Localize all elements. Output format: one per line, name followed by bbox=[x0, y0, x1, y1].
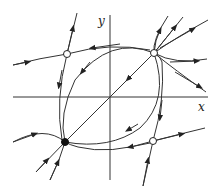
y-axis-label: y bbox=[98, 14, 105, 28]
x-axis-label: x bbox=[198, 100, 205, 114]
saddle-bottom-right-point bbox=[150, 138, 157, 145]
phase-portrait bbox=[0, 0, 218, 194]
unstable-node-point bbox=[151, 50, 158, 57]
ellipse-lower-arc bbox=[65, 53, 160, 144]
saddle-tl-vertical bbox=[59, 13, 77, 140]
saddle-tl-horizontal bbox=[13, 47, 150, 65]
saddle-top-left-point bbox=[64, 51, 71, 58]
stable-node-point bbox=[62, 139, 69, 146]
saddle-br-vertical bbox=[143, 54, 163, 186]
